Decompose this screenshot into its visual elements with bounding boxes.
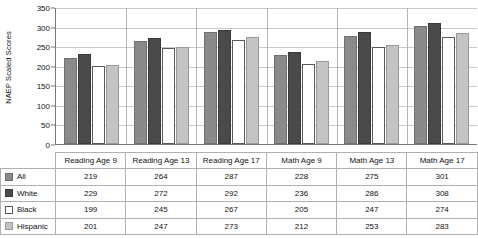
legend-label: White [17,189,37,198]
table-cell-value: 229 [56,185,126,202]
table-cell-value: 287 [196,169,266,186]
legend-swatch-icon [5,206,13,214]
bar-group [407,8,477,144]
table-cell-value: 201 [56,218,126,235]
bar-groups [56,8,477,144]
legend-cell: All [1,169,56,186]
legend-swatch-icon [5,222,13,230]
table-cell-value: 212 [266,218,336,235]
bar-chart: NAEP Scaled Scores 050100150200250300350 [0,0,477,152]
table-cell-value: 272 [126,185,196,202]
y-tick-label: 300 [37,23,50,32]
bar [386,45,399,144]
table-cell-value: 199 [56,202,126,219]
legend-swatch-icon [5,189,13,197]
table-cell-value: 236 [266,185,336,202]
plot-area [55,8,477,145]
bar [288,52,301,144]
bar [134,41,147,144]
bar [456,33,469,144]
table-cell-value: 286 [337,185,407,202]
table-cell-value: 219 [56,169,126,186]
table-corner-cell [1,153,56,169]
table-cell-value: 245 [126,202,196,219]
table-cell-value: 292 [196,185,266,202]
table-column-header: Reading Age 9 [56,153,126,169]
table-row: White229272292236286308 [1,185,478,202]
table-cell-value: 228 [266,169,336,186]
table-column-header: Reading Age 13 [126,153,196,169]
legend-swatch-icon [5,173,13,181]
legend-cell: White [1,185,56,202]
bar-group [267,8,337,144]
legend-label: Hispanic [17,222,48,231]
bar [428,23,441,144]
bar [162,48,175,144]
bar [358,32,371,144]
bar [218,30,231,144]
table-row: Hispanic201247273212253283 [1,218,478,235]
y-tick-label: 50 [41,121,50,130]
data-table: Reading Age 9Reading Age 13Reading Age 1… [0,152,478,235]
table-column-header: Math Age 9 [266,153,336,169]
y-tick-label: 200 [37,62,50,71]
legend-label: Black [17,205,37,214]
y-axis-title: NAEP Scaled Scores [0,0,15,152]
bar [106,65,119,144]
table-cell-value: 247 [337,202,407,219]
table-row: All219264287228275301 [1,169,478,186]
table-row: Black199245267205247274 [1,202,478,219]
bar [204,32,217,144]
table-cell-value: 205 [266,202,336,219]
table-cell-value: 301 [407,169,477,186]
bar-group [126,8,196,144]
bar-group [337,8,407,144]
table-cell-value: 247 [126,218,196,235]
table-cell-value: 308 [407,185,477,202]
bar-group [56,8,126,144]
table-body: All219264287228275301White22927229223628… [1,169,478,235]
bar [316,61,329,144]
bar [92,66,105,144]
bar [78,54,91,144]
y-tick-label: 250 [37,43,50,52]
bar [246,37,259,144]
table-column-header: Math Age 13 [337,153,407,169]
legend-cell: Black [1,202,56,219]
legend-label: All [17,172,26,181]
y-axis-title-text: NAEP Scaled Scores [4,8,13,128]
y-tick-label: 100 [37,101,50,110]
y-tick-label: 350 [37,4,50,13]
legend-cell: Hispanic [1,218,56,235]
bar [372,47,385,144]
table-cell-value: 283 [407,218,477,235]
table-column-header: Reading Age 17 [196,153,266,169]
table-cell-value: 275 [337,169,407,186]
table-cell-value: 264 [126,169,196,186]
bar [414,26,427,144]
table-header-row: Reading Age 9Reading Age 13Reading Age 1… [1,153,478,169]
table-cell-value: 267 [196,202,266,219]
bar-group [196,8,266,144]
table-cell-value: 273 [196,218,266,235]
bar [274,55,287,144]
y-axis-ticks: 050100150200250300350 [15,0,55,152]
bar [302,64,315,144]
bar [148,38,161,144]
table-column-header: Math Age 17 [407,153,477,169]
table-cell-value: 274 [407,202,477,219]
bar [232,40,245,145]
bar [442,37,455,144]
y-tick-label: 0 [46,141,50,150]
bar [344,36,357,144]
bar [64,58,77,144]
data-table-area: Reading Age 9Reading Age 13Reading Age 1… [0,152,477,235]
bar [176,47,189,144]
y-tick-label: 150 [37,82,50,91]
table-cell-value: 253 [337,218,407,235]
